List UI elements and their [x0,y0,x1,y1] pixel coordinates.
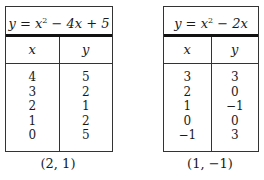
cell-x: −1 [164,128,211,143]
cell-y: 0 [212,114,259,129]
cell-y: 2 [60,114,113,129]
equation-text: y = x [174,16,208,31]
cell-x: 1 [164,99,211,114]
vertex-label-1: (2, 1) [5,156,111,171]
cell-x: 3 [164,70,211,85]
cell-y: 1 [60,99,113,114]
table-quadratic-1: y = x2 − 4x + 5 x y 4 3 2 1 0 5 2 1 2 5 [5,6,113,152]
equation-header: y = x2 − 2x [164,7,258,37]
column-header-x: x [6,37,60,63]
cell-y: 5 [60,70,113,85]
cell-x: 1 [6,114,59,129]
cell-x: 2 [164,85,211,100]
column-header-x: x [164,37,212,63]
y-column: 3 0 −1 0 3 [212,64,259,151]
cell-x: 2 [6,99,59,114]
cell-y: 3 [212,128,259,143]
x-column: 3 2 1 0 −1 [164,64,212,151]
vertex-label-2: (1, −1) [163,156,257,171]
cell-x: 0 [164,114,211,129]
cell-x: 0 [6,128,59,143]
column-header-y: y [212,37,259,63]
table-quadratic-2: y = x2 − 2x x y 3 2 1 0 −1 3 0 −1 0 3 [163,6,259,152]
cell-x: 3 [6,85,59,100]
column-headers: x y [6,37,112,64]
equation-text: − 4x + 5 [47,16,109,31]
x-column: 4 3 2 1 0 [6,64,60,151]
cell-y: 3 [212,70,259,85]
cell-y: 0 [212,85,259,100]
table-body: 3 2 1 0 −1 3 0 −1 0 3 [164,64,258,151]
y-column: 5 2 1 2 5 [60,64,113,151]
table-body: 4 3 2 1 0 5 2 1 2 5 [6,64,112,151]
equation-header: y = x2 − 4x + 5 [6,7,112,37]
equation-text: y = x [8,16,42,31]
column-header-y: y [60,37,113,63]
cell-y: −1 [212,99,259,114]
equation-text: − 2x [213,16,248,31]
cell-x: 4 [6,70,59,85]
column-headers: x y [164,37,258,64]
cell-y: 5 [60,128,113,143]
cell-y: 2 [60,85,113,100]
